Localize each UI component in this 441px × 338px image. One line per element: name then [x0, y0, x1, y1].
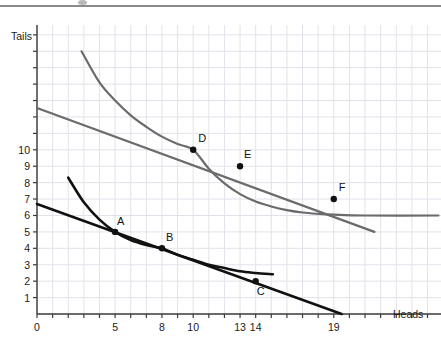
data-point-a[interactable]: [112, 229, 118, 235]
y-tick-label: 2: [24, 275, 30, 287]
y-tick-label: 7: [24, 193, 30, 205]
axis-ticks: [33, 35, 428, 318]
plot-area: ABCDEF 1234567891005810131419 Tails Head…: [0, 7, 441, 338]
x-tick-label: 8: [159, 321, 165, 333]
data-point-label-d: D: [198, 132, 206, 144]
data-point-label-f: F: [339, 181, 346, 193]
indifference-curve-chart: ABCDEF 1234567891005810131419 Tails Head…: [0, 7, 441, 338]
x-tick-label: 5: [112, 321, 118, 333]
data-point-label-c: C: [257, 285, 265, 297]
x-tick-label: 13: [234, 321, 246, 333]
data-point-b[interactable]: [159, 245, 165, 251]
data-point-label-e: E: [244, 148, 251, 160]
data-point-label-b: B: [166, 231, 173, 243]
y-tick-label: 8: [24, 177, 30, 189]
data-point-label-a: A: [117, 215, 125, 227]
data-point-d[interactable]: [190, 147, 196, 153]
top-bar-nub-icon: [78, 0, 87, 5]
x-tick-label: 19: [328, 321, 340, 333]
top-divider-bar: [0, 0, 441, 7]
x-tick-label: 10: [187, 321, 199, 333]
axis-tick-labels: 1234567891005810131419: [18, 144, 339, 333]
y-tick-label: 9: [24, 160, 30, 172]
y-tick-label: 1: [24, 292, 30, 304]
y-tick-label: 5: [24, 226, 30, 238]
y-tick-label: 10: [18, 144, 30, 156]
y-tick-label: 6: [24, 209, 30, 221]
chart-page: ABCDEF 1234567891005810131419 Tails Head…: [0, 0, 441, 338]
data-point-f[interactable]: [331, 196, 337, 202]
y-tick-label: 3: [24, 259, 30, 271]
x-tick-label: 0: [34, 321, 40, 333]
y-axis-title: Tails: [11, 30, 32, 42]
data-point-c[interactable]: [252, 278, 258, 284]
x-axis-title: Heads: [393, 308, 423, 320]
y-tick-label: 4: [24, 242, 30, 254]
x-tick-label: 14: [250, 321, 262, 333]
data-point-e[interactable]: [237, 163, 243, 169]
